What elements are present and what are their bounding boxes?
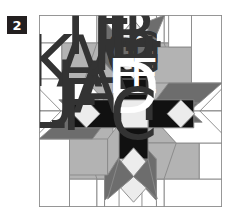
step-number-badge: 2 <box>7 16 27 34</box>
label-C: C <box>110 72 158 156</box>
piece-K-left-lower <box>39 139 70 207</box>
quilt-block-diagram: I K A A A J J L L L L F F B G G G G H H … <box>39 15 222 207</box>
piece-I-right <box>169 15 192 47</box>
piece-K-right <box>192 15 223 83</box>
